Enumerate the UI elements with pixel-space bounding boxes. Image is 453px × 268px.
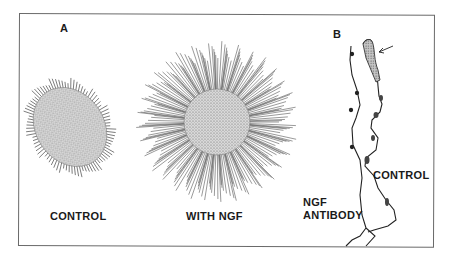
ngf-antibody-label-line2: ANTIBODY <box>303 209 363 221</box>
figure-artwork <box>0 0 453 268</box>
ngf-ganglion-icon <box>136 41 296 202</box>
panel-a-letter: A <box>60 22 68 34</box>
control-label: CONTROL <box>50 210 106 222</box>
control-ganglion-icon <box>18 73 122 181</box>
control-neuron-icon <box>363 40 396 233</box>
control-neuron-label: CONTROL <box>373 169 429 181</box>
ngf-antibody-label-line1: NGF <box>303 196 327 208</box>
with-ngf-label: WITH NGF <box>186 210 243 222</box>
arrow-icon <box>379 46 393 53</box>
panel-b-letter: B <box>333 28 341 40</box>
